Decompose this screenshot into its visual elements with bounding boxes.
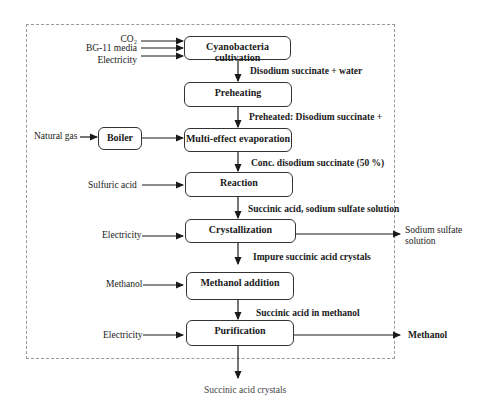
output-product: Succinic acid crystals	[204, 385, 286, 395]
input-electricity-1: Electricity	[97, 55, 137, 65]
methanol-addition-label: Methanol addition	[200, 277, 279, 288]
output-sodium-sulfate-line2: solution	[405, 236, 436, 246]
cultivation-label: Cyanobacteria cultivation	[206, 41, 269, 63]
reaction-label: Reaction	[220, 177, 258, 188]
stream-label-2: Preheated: Disodium succinate +	[249, 112, 382, 122]
boiler-box: Boiler	[98, 127, 142, 150]
evaporation-box: Multi-effect evaporation	[184, 128, 292, 152]
crystallization-label: Crystallization	[209, 224, 272, 235]
stream-label-1: Disodium succinate + water	[250, 66, 362, 76]
methanol-addition-box: Methanol addition	[186, 272, 294, 300]
input-sulfuric-acid: Sulfuric acid	[88, 180, 137, 190]
output-methanol: Methanol	[408, 330, 447, 340]
cultivation-box: Cyanobacteria cultivation	[184, 36, 291, 60]
reaction-box: Reaction	[185, 172, 293, 197]
stream-label-3: Conc. disodium succinate (50 %)	[251, 158, 384, 168]
output-sodium-sulfate-line1: Sodium sulfate	[405, 225, 462, 235]
input-bg11: BG-11 media	[86, 43, 137, 53]
evaporation-label: Multi-effect evaporation	[186, 133, 290, 144]
purification-label: Purification	[214, 325, 265, 336]
crystallization-box: Crystallization	[185, 219, 296, 243]
input-electricity-3: Electricity	[103, 330, 143, 340]
boiler-label: Boiler	[107, 132, 133, 143]
input-methanol: Methanol	[106, 279, 142, 289]
input-natural-gas: Natural gas	[34, 131, 78, 141]
preheating-label: Preheating	[215, 87, 261, 98]
stream-label-5: Impure succinic acid crystals	[253, 252, 371, 262]
stream-label-6: Succinic acid in methanol	[256, 308, 360, 318]
preheating-box: Preheating	[184, 82, 292, 107]
stream-label-4: Succinic acid, sodium sulfate solution	[248, 204, 399, 214]
purification-box: Purification	[186, 320, 294, 346]
input-electricity-2: Electricity	[102, 230, 142, 240]
